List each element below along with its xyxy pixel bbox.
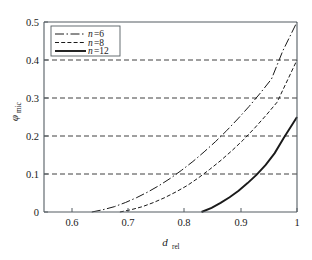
y-axis-label-subscript: mic (15, 102, 23, 113)
chart-figure: 0 0.1 0.2 0.3 0.4 0.5 0.6 0.7 0.8 0.9 1 … (0, 0, 312, 260)
y-tick-label-0.1: 0.1 (26, 169, 39, 180)
x-axis-label: d rel (162, 236, 179, 251)
y-tick-label-0.4: 0.4 (26, 55, 40, 66)
legend-label-n12-base: n (88, 46, 93, 56)
y-tick-label-0: 0 (34, 207, 39, 218)
x-axis-label-base: d (162, 236, 168, 248)
chart-svg: 0 0.1 0.2 0.3 0.4 0.5 0.6 0.7 0.8 0.9 1 … (0, 0, 312, 260)
x-tick-label-0.8: 0.8 (177, 217, 190, 228)
x-tick-label-0.7: 0.7 (121, 217, 134, 228)
x-tick-label-1: 1 (294, 217, 299, 228)
y-tick-label-0.5: 0.5 (26, 17, 39, 28)
y-axis-label-base: φ (8, 115, 20, 121)
x-axis-label-subscript: rel (172, 243, 180, 251)
y-tick-label-0.3: 0.3 (26, 93, 39, 104)
x-tick-label-0.9: 0.9 (234, 217, 247, 228)
y-tick-label-0.2: 0.2 (26, 131, 39, 142)
legend-label-n12-value: =12 (94, 46, 109, 56)
y-tick-labels: 0 0.1 0.2 0.3 0.4 0.5 (26, 17, 40, 218)
y-axis-label: φ mic (8, 102, 23, 121)
x-tick-label-0.6: 0.6 (65, 217, 78, 228)
x-tick-labels: 0.6 0.7 0.8 0.9 1 (65, 217, 299, 228)
